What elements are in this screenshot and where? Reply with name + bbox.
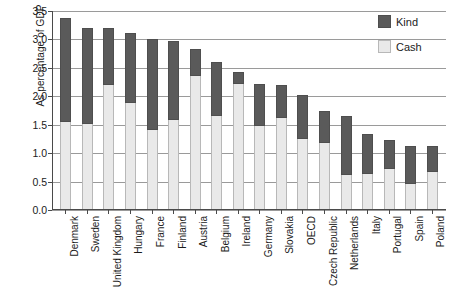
bar-stack (82, 28, 93, 211)
bar-segment-kind[interactable] (362, 134, 373, 174)
x-axis-tick-mark (432, 210, 433, 214)
x-axis-tick-mark (324, 210, 325, 214)
bar-stack (276, 85, 287, 210)
x-axis-label-cell: Hungary (120, 216, 142, 306)
x-axis-label-cell: Italy (357, 216, 379, 306)
bar-segment-kind[interactable] (405, 146, 416, 185)
bar-segment-kind[interactable] (319, 111, 330, 143)
chart-figure: As percentage of GDP 0.00.51.01.52.02.53… (0, 0, 452, 307)
legend-swatch-cash-icon (378, 40, 391, 53)
bar-column[interactable] (249, 11, 271, 210)
x-axis-label-cell: Austria (184, 216, 206, 306)
bar-segment-cash[interactable] (147, 130, 158, 210)
x-axis-tick-mark (238, 210, 239, 214)
bar-segment-cash[interactable] (103, 85, 114, 210)
bar-column[interactable] (98, 11, 120, 210)
bar-stack (319, 111, 330, 210)
bar-segment-cash[interactable] (233, 84, 244, 210)
bar-segment-kind[interactable] (254, 84, 265, 126)
bar-segment-kind[interactable] (168, 41, 179, 120)
bar-stack (147, 39, 158, 210)
bar-segment-kind[interactable] (125, 33, 136, 103)
bar-segment-kind[interactable] (384, 140, 395, 168)
bar-segment-cash[interactable] (168, 120, 179, 210)
bar-column[interactable] (228, 11, 250, 210)
bar-column[interactable] (357, 11, 379, 210)
x-axis-label-cell: Sweden (77, 216, 99, 306)
x-axis-label-cell: Germany (249, 216, 271, 306)
bar-column[interactable] (77, 11, 99, 210)
bar-segment-kind[interactable] (341, 116, 352, 175)
legend-item-kind[interactable]: Kind (378, 15, 448, 28)
bar-stack (405, 146, 416, 210)
y-axis-tick-label: 0.0 (32, 204, 47, 216)
bar-segment-cash[interactable] (341, 175, 352, 210)
x-axis-label-cell: Netherlands (335, 216, 357, 306)
bar-segment-kind[interactable] (103, 28, 114, 85)
bar-segment-kind[interactable] (190, 49, 201, 76)
bar-column[interactable] (120, 11, 142, 210)
x-axis-tick-mark (108, 210, 109, 214)
x-axis-tick-mark (346, 210, 347, 214)
bar-segment-kind[interactable] (427, 146, 438, 172)
bar-column[interactable] (163, 11, 185, 210)
x-axis-label-cell: Poland (422, 216, 444, 306)
bar-segment-kind[interactable] (147, 39, 158, 131)
x-axis-tick-mark (410, 210, 411, 214)
bar-segment-kind[interactable] (233, 72, 244, 83)
bar-column[interactable] (271, 11, 293, 210)
bar-segment-cash[interactable] (427, 172, 438, 210)
bar-stack (190, 49, 201, 210)
bar-stack (384, 140, 395, 210)
y-axis-tick-label: 1.5 (32, 119, 47, 131)
bar-stack (211, 62, 222, 210)
legend-item-cash[interactable]: Cash (378, 40, 448, 53)
bar-segment-kind[interactable] (60, 18, 71, 122)
bar-segment-kind[interactable] (211, 62, 222, 116)
x-axis-ticks (52, 210, 446, 215)
legend-swatch-kind-icon (378, 15, 391, 28)
x-axis-tick-mark (302, 210, 303, 214)
bar-column[interactable] (206, 11, 228, 210)
bar-column[interactable] (55, 11, 77, 210)
y-axis-tick-label: 3.0 (32, 33, 47, 45)
legend-label-kind: Kind (396, 16, 418, 28)
x-axis-tick-mark (281, 210, 282, 214)
bar-column[interactable] (335, 11, 357, 210)
bar-column[interactable] (141, 11, 163, 210)
x-axis-tick-mark (367, 210, 368, 214)
x-axis-label-cell: OECD (292, 216, 314, 306)
bar-segment-kind[interactable] (82, 28, 93, 124)
bar-segment-cash[interactable] (190, 76, 201, 210)
bar-segment-cash[interactable] (254, 126, 265, 210)
bar-segment-cash[interactable] (211, 116, 222, 210)
x-axis-tick-mark (195, 210, 196, 214)
x-axis-tick-mark (389, 210, 390, 214)
bar-segment-cash[interactable] (297, 139, 308, 210)
bar-stack (254, 84, 265, 210)
bar-stack (125, 33, 136, 210)
x-axis-label-cell: Spain (400, 216, 422, 306)
bar-column[interactable] (314, 11, 336, 210)
x-axis-tick-mark (259, 210, 260, 214)
bar-stack (297, 95, 308, 210)
bar-segment-cash[interactable] (405, 184, 416, 210)
bar-segment-kind[interactable] (276, 85, 287, 118)
bar-segment-kind[interactable] (297, 95, 308, 139)
x-axis-label-cell: Czech Republic (314, 216, 336, 306)
bar-column[interactable] (292, 11, 314, 210)
x-axis-label-cell: Belgium (206, 216, 228, 306)
bar-segment-cash[interactable] (60, 122, 71, 210)
bar-segment-cash[interactable] (362, 174, 373, 210)
bar-column[interactable] (184, 11, 206, 210)
bar-segment-cash[interactable] (82, 124, 93, 210)
bar-segment-cash[interactable] (319, 143, 330, 210)
x-axis-label-cell: United Kingdom (98, 216, 120, 306)
x-axis-label-cell: Ireland (228, 216, 250, 306)
x-axis-label-cell: Denmark (55, 216, 77, 306)
x-axis-labels: DenmarkSwedenUnited KingdomHungaryFrance… (52, 216, 446, 306)
bar-segment-cash[interactable] (384, 169, 395, 211)
bar-segment-cash[interactable] (125, 103, 136, 210)
x-axis-label-cell: France (141, 216, 163, 306)
bar-segment-cash[interactable] (276, 118, 287, 210)
